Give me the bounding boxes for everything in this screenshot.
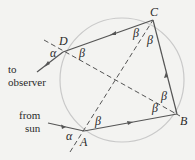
label-observer: observer [8,76,46,88]
angle-alpha-a: α [66,129,73,143]
angle-beta-c2: β [146,33,153,47]
arrow-icon [44,61,50,67]
angle-beta-c1: β [132,26,139,40]
label-sun: sun [25,122,41,134]
angle-beta-d: β [78,46,85,60]
label-to: to [8,63,17,75]
vertex-label-d: D [58,34,68,48]
arrow-icon [110,31,116,35]
angle-beta-b1: β [160,89,167,103]
angle-alpha-d: α [50,46,57,60]
ray-c-d [63,20,153,52]
droplet-circle [60,18,184,142]
vertex-label-c: C [150,5,159,19]
vertex-label-a: A [79,135,88,149]
raindrop-diagram: C D B A α β β β β β β α from sun to obse… [0,0,195,160]
vertex-label-b: B [180,114,188,128]
angle-beta-b2: β [151,101,158,115]
label-from: from [19,109,41,121]
normal-line-a-c [70,20,153,152]
angle-beta-a: β [94,114,101,128]
